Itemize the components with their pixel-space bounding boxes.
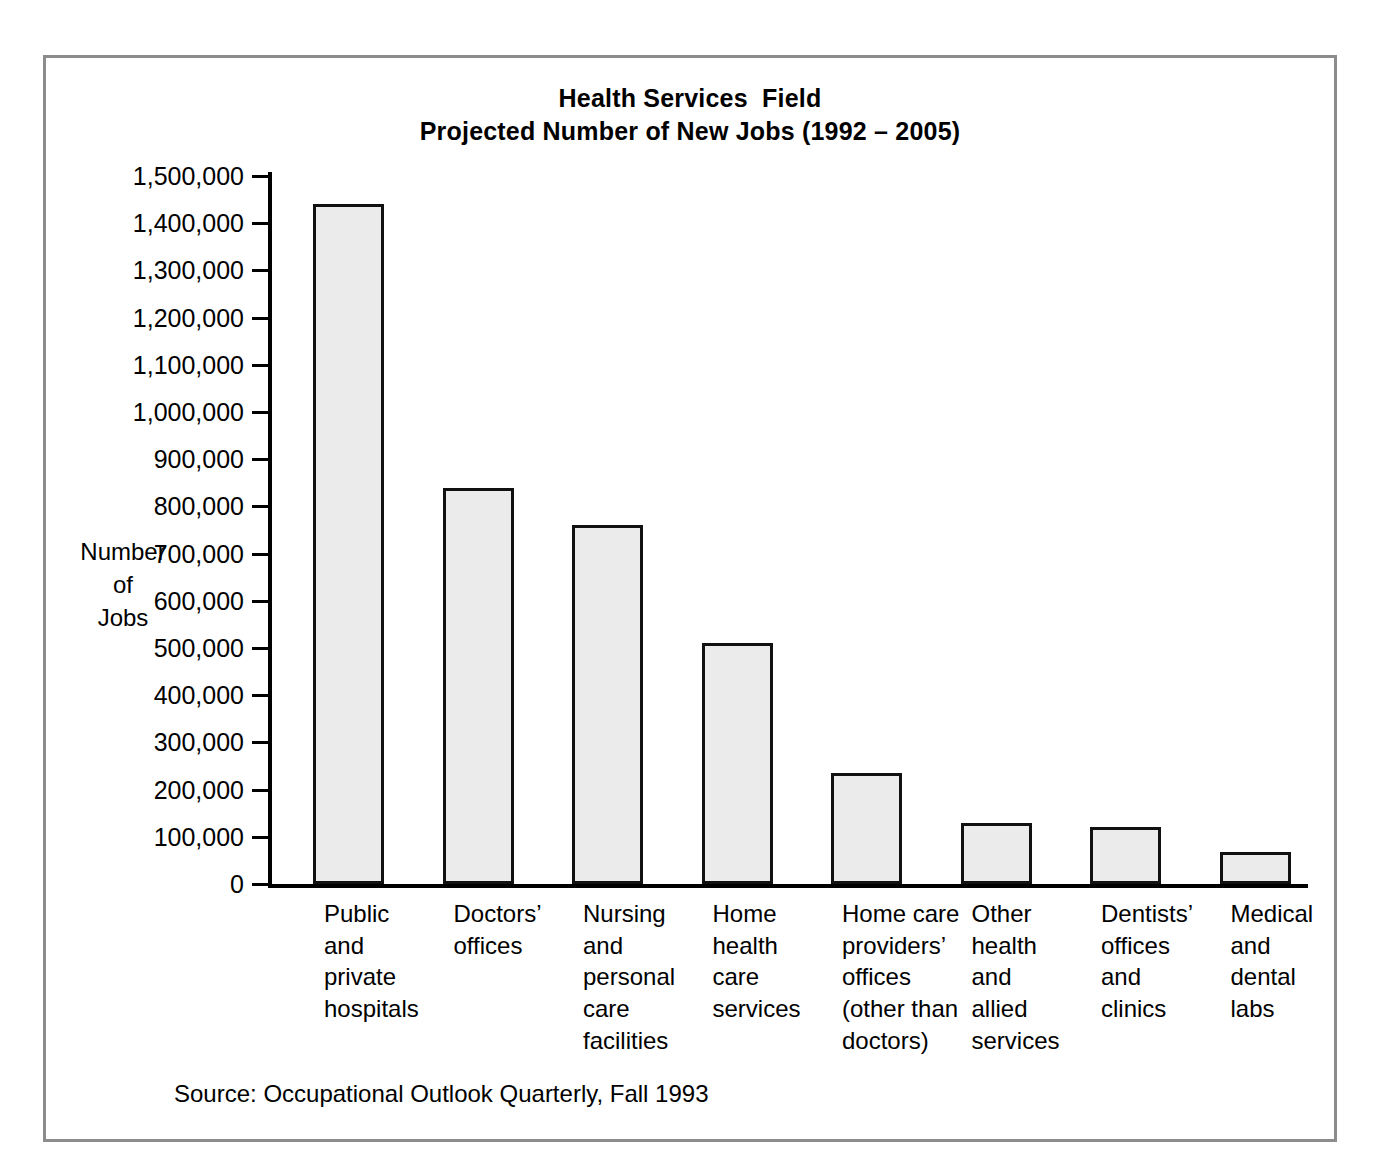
y-axis-tick	[252, 505, 268, 508]
y-axis-tick-label: 0	[34, 870, 244, 899]
y-axis-tick	[252, 317, 268, 320]
y-axis-tick	[252, 175, 268, 178]
x-axis-category-labels: Public and private hospitalsDoctors’ off…	[268, 898, 1368, 1073]
source-note: Source: Occupational Outlook Quarterly, …	[174, 1080, 709, 1108]
y-axis-tick	[252, 600, 268, 603]
bar	[572, 525, 643, 884]
y-axis-tick	[252, 647, 268, 650]
bar	[1220, 852, 1291, 884]
y-axis-tick	[252, 883, 268, 886]
y-axis-tick-label: 600,000	[34, 586, 244, 615]
y-axis-tick	[252, 694, 268, 697]
y-axis-tick-label: 200,000	[34, 775, 244, 804]
bar	[702, 643, 773, 884]
x-axis-category-label: Medical and dental labs	[1231, 898, 1314, 1025]
y-axis-tick	[252, 741, 268, 744]
x-axis-category-label: Doctors’ offices	[454, 898, 542, 961]
x-axis-category-label: Public and private hospitals	[324, 898, 419, 1025]
x-axis-category-label: Home health care services	[713, 898, 801, 1025]
x-axis-category-label: Dentists’ offices and clinics	[1101, 898, 1193, 1025]
figure-frame: Health Services Field Projected Number o…	[43, 55, 1337, 1142]
y-axis-tick-label: 800,000	[34, 492, 244, 521]
bar	[831, 773, 902, 884]
bar	[313, 204, 384, 884]
y-axis-tick-label: 500,000	[34, 634, 244, 663]
y-axis-tick	[252, 789, 268, 792]
y-axis-tick-label: 900,000	[34, 445, 244, 474]
y-axis-tick-label: 1,300,000	[34, 256, 244, 285]
y-axis-tick	[252, 364, 268, 367]
x-axis-category-label: Home care providers’ offices (other than…	[842, 898, 959, 1056]
y-axis-tick-label: 1,500,000	[34, 162, 244, 191]
y-axis-tick-label: 1,000,000	[34, 398, 244, 427]
y-axis-tick	[252, 222, 268, 225]
x-axis-category-label: Other health and allied services	[972, 898, 1060, 1056]
y-axis-tick-label: 1,200,000	[34, 303, 244, 332]
y-axis-tick	[252, 458, 268, 461]
bar	[961, 823, 1032, 884]
y-axis-tick-label: 700,000	[34, 539, 244, 568]
x-axis-line	[268, 884, 1308, 888]
y-axis-tick	[252, 553, 268, 556]
chart-title-line-2: Projected Number of New Jobs (1992 – 200…	[46, 115, 1334, 148]
y-axis-tick-label: 300,000	[34, 728, 244, 757]
x-axis-category-label: Nursing and personal care facilities	[583, 898, 675, 1056]
chart-title-line-1: Health Services Field	[46, 82, 1334, 115]
y-axis-tick	[252, 836, 268, 839]
y-axis-tick	[252, 269, 268, 272]
plot-area: 1,500,0001,400,0001,300,0001,200,0001,10…	[268, 176, 1308, 884]
y-axis-line	[268, 172, 272, 888]
y-axis-tick-label: 400,000	[34, 681, 244, 710]
y-axis-tick-label: 1,100,000	[34, 350, 244, 379]
y-axis-tick	[252, 411, 268, 414]
chart-title: Health Services Field Projected Number o…	[46, 82, 1334, 147]
bar	[1090, 827, 1161, 884]
bar	[443, 488, 514, 884]
y-axis-tick-label: 1,400,000	[34, 209, 244, 238]
y-axis-tick-label: 100,000	[34, 822, 244, 851]
